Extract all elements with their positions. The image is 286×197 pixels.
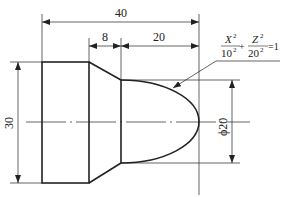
svg-text:2: 2 (260, 32, 264, 40)
svg-text:2: 2 (260, 46, 264, 54)
dim-40: 40 (115, 6, 127, 20)
svg-text:2: 2 (233, 46, 237, 54)
svg-text:=1: =1 (268, 41, 279, 52)
svg-text:20: 20 (248, 47, 260, 59)
svg-text:X: X (224, 33, 233, 45)
dim-phi20: ϕ20 (216, 118, 230, 136)
svg-text:+: + (239, 41, 245, 52)
svg-text:2: 2 (233, 32, 237, 40)
svg-text:Z: Z (252, 33, 259, 45)
dim-8: 8 (102, 30, 108, 44)
dim-30: 30 (2, 117, 16, 129)
dim-20: 20 (153, 30, 165, 44)
ellipse-equation: X 2 10 2 + Z 2 20 2 =1 (221, 32, 279, 59)
extension-lines (10, 14, 240, 195)
svg-text:10: 10 (221, 47, 233, 59)
leader-line (173, 61, 280, 88)
part-drawing: 40 8 20 30 ϕ20 X 2 10 2 + Z 2 20 2 =1 (0, 0, 286, 197)
